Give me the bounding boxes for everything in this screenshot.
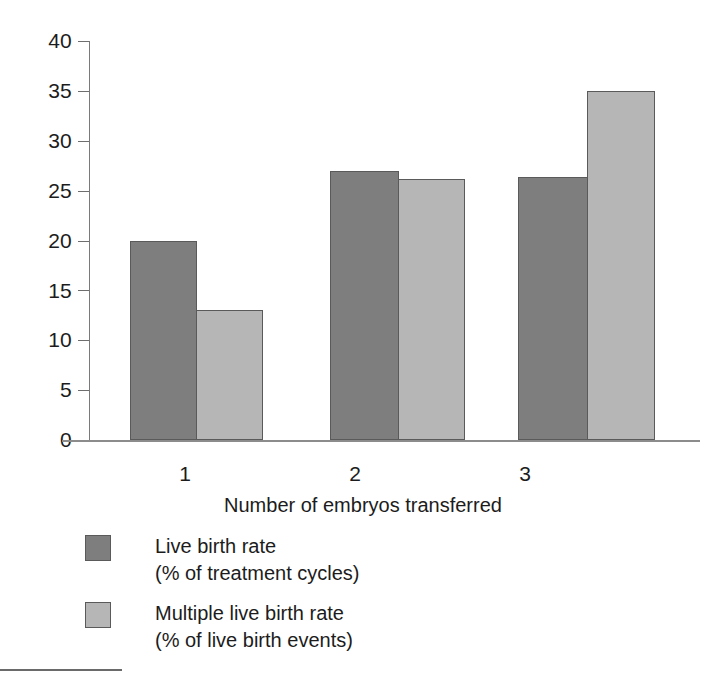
y-tick-mark-30: [78, 141, 89, 142]
x-tick-label-1: 1: [155, 462, 215, 486]
plot-area: [90, 41, 700, 440]
legend-label-live-birth-rate: Live birth rate (% of treatment cycles): [155, 533, 360, 587]
y-tick-mark-20: [78, 241, 89, 242]
y-tick-label-30: 30: [14, 130, 72, 151]
x-axis-line: [62, 440, 700, 442]
legend-item-live-birth-rate[interactable]: Live birth rate (% of treatment cycles): [85, 533, 585, 587]
y-tick-label-5: 5: [14, 379, 72, 400]
bar-live-birth-rate-1[interactable]: [130, 241, 197, 441]
x-tick-label-3: 3: [495, 462, 555, 486]
y-tick-mark-40: [78, 41, 89, 42]
y-tick-mark-25: [78, 191, 89, 192]
bar-multiple-live-birth-rate-1[interactable]: [196, 310, 263, 440]
x-axis-title: Number of embryos transferred: [0, 493, 726, 517]
bar-multiple-live-birth-rate-3[interactable]: [587, 91, 655, 440]
y-tick-mark-10: [78, 340, 89, 341]
y-tick-label-20: 20: [14, 230, 72, 251]
y-tick-label-25: 25: [14, 180, 72, 201]
x-tick-label-2: 2: [325, 462, 385, 486]
legend-label-line1: Multiple live birth rate: [155, 602, 344, 624]
legend-label-line2: (% of live birth events): [155, 627, 353, 654]
bar-live-birth-rate-2[interactable]: [330, 171, 399, 440]
footer-rule: [0, 669, 122, 671]
bar-chart-figure: 40 35 30 25 20 15 10 5 0: [0, 0, 726, 679]
legend-label-line2: (% of treatment cycles): [155, 560, 360, 587]
y-tick-mark-35: [78, 91, 89, 92]
bar-group-2: [330, 41, 465, 440]
y-tick-label-15: 15: [14, 280, 72, 301]
legend-item-multiple-live-birth-rate[interactable]: Multiple live birth rate (% of live birt…: [85, 600, 585, 654]
legend-label-multiple-live-birth-rate: Multiple live birth rate (% of live birt…: [155, 600, 353, 654]
legend-swatch-dark-gray-icon: [85, 535, 111, 561]
y-tick-label-40: 40: [14, 30, 72, 51]
y-tick-mark-5: [78, 390, 89, 391]
bar-multiple-live-birth-rate-2[interactable]: [398, 179, 465, 440]
y-tick-label-35: 35: [14, 80, 72, 101]
y-tick-label-10: 10: [14, 329, 72, 350]
bar-group-1: [130, 41, 263, 440]
legend-label-line1: Live birth rate: [155, 535, 276, 557]
legend-swatch-light-gray-icon: [85, 602, 111, 628]
bar-group-3: [518, 41, 655, 440]
bar-live-birth-rate-3[interactable]: [518, 177, 588, 440]
chart-legend: Live birth rate (% of treatment cycles) …: [85, 533, 585, 667]
y-tick-mark-15: [78, 290, 89, 291]
